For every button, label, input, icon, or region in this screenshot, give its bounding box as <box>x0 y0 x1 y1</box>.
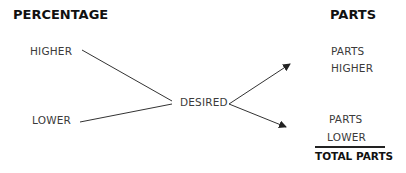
line-lower-to-desired <box>80 104 172 122</box>
arrow-to-parts-lower <box>229 104 286 127</box>
connector-lines <box>0 0 406 173</box>
line-higher-to-desired <box>82 50 172 101</box>
arrow-to-parts-higher <box>229 64 290 104</box>
